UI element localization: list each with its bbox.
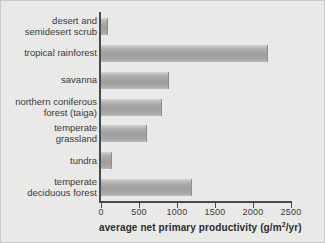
category-label: savanna <box>61 74 97 85</box>
category-label: tropical rainforest <box>24 47 97 58</box>
chart-screenshot: 05001000150020002500 desert and semidese… <box>0 0 325 243</box>
x-axis-tick-label: 0 <box>98 207 103 218</box>
bar <box>101 72 169 89</box>
bar-chart-plot: 05001000150020002500 desert and semidese… <box>1 1 325 243</box>
x-axis-title-tail: /yr) <box>286 222 302 233</box>
bar <box>101 99 162 116</box>
x-axis-tick-label: 1500 <box>205 207 226 218</box>
bar <box>101 18 108 35</box>
x-axis-tick-label: 2000 <box>243 207 264 218</box>
x-axis-tick-label: 2500 <box>281 207 302 218</box>
bar <box>101 179 192 196</box>
bar <box>101 45 268 62</box>
x-axis-line <box>99 201 292 203</box>
category-label: tundra <box>70 155 97 166</box>
x-axis-title: average net primary productivity (g/m2/y… <box>99 222 299 233</box>
bar <box>101 152 112 169</box>
category-label: temperate deciduous forest <box>27 176 97 198</box>
category-label: desert and semidesert scrub <box>25 15 97 37</box>
category-label: northern coniferous forest (taiga) <box>15 96 97 118</box>
x-axis-tick-label: 500 <box>131 207 147 218</box>
x-axis-title-main: average net primary productivity (g/m <box>99 222 282 233</box>
x-axis-tick-label: 1000 <box>167 207 188 218</box>
bar <box>101 125 147 142</box>
category-label: temperate grassland <box>54 122 97 144</box>
